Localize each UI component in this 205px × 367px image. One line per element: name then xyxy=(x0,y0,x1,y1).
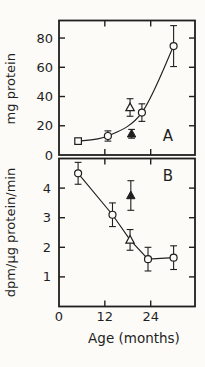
y-tick-label: 0 xyxy=(45,148,53,163)
y-tick-label: 40 xyxy=(36,89,53,104)
y-tick-label: 4 xyxy=(43,181,51,196)
panel-letter: B xyxy=(163,167,173,185)
circle-marker xyxy=(170,254,177,261)
two-panel-age-protein-chart: 020406080Amg protein1234Bdpm/µg protein/… xyxy=(0,0,205,367)
scanned-figure-page: 020406080Amg protein1234Bdpm/µg protein/… xyxy=(0,0,205,367)
panel-letter: A xyxy=(163,127,174,145)
circle-marker xyxy=(109,211,116,218)
panel-B: 1234Bdpm/µg protein/min xyxy=(3,159,195,307)
panel-frame xyxy=(59,21,195,156)
y-tick-label: 60 xyxy=(36,60,53,75)
series-curve xyxy=(78,46,173,141)
y-axis-label: mg protein xyxy=(3,53,18,124)
circle-marker xyxy=(138,109,145,116)
y-tick-label: 80 xyxy=(36,31,53,46)
panel-frame xyxy=(59,159,195,307)
series-specific-activity-line xyxy=(75,162,178,271)
circle-marker xyxy=(75,170,82,177)
square-marker xyxy=(75,138,82,145)
series-filled-triangle-point xyxy=(127,129,135,138)
filled-triangle-marker xyxy=(127,191,135,199)
y-tick-label: 20 xyxy=(36,118,53,133)
circle-marker xyxy=(170,43,177,50)
series-line xyxy=(78,173,174,259)
circle-marker xyxy=(145,256,152,263)
x-tick-label: 24 xyxy=(142,309,159,324)
panel-A: 020406080Amg protein xyxy=(3,21,195,163)
y-tick-label: 2 xyxy=(43,240,51,255)
y-axis-label: dpm/µg protein/min xyxy=(3,168,18,297)
y-tick-label: 3 xyxy=(43,210,51,225)
series-open-triangle-point xyxy=(126,99,134,117)
x-tick-label: 0 xyxy=(55,309,63,324)
filled-triangle-marker xyxy=(127,129,135,137)
x-tick-label: 12 xyxy=(97,309,114,324)
circle-marker xyxy=(104,132,111,139)
open-triangle-marker xyxy=(126,103,134,111)
x-axis-label: Age (months) xyxy=(88,330,180,346)
series-filled-triangle-point xyxy=(127,181,135,211)
y-tick-label: 1 xyxy=(43,269,51,284)
series-protein-curve xyxy=(75,26,177,145)
